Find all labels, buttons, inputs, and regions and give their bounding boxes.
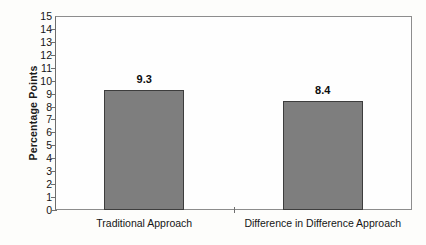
bar	[104, 90, 184, 210]
y-axis-tick-label: 2	[6, 178, 52, 190]
y-axis-tick-label: 15	[6, 10, 52, 22]
y-axis-tick-label: 0	[6, 204, 52, 216]
x-axis-tick-mark	[234, 207, 235, 213]
x-axis-tick-label: Traditional Approach	[96, 217, 192, 229]
y-axis-tick-label: 3	[6, 165, 52, 177]
y-axis-tick-mark	[51, 210, 57, 211]
y-axis-tick-label: 4	[6, 152, 52, 164]
y-axis-tick-label: 13	[6, 36, 52, 48]
y-axis-tick-label: 1	[6, 191, 52, 203]
bar-value-label: 8.4	[315, 84, 330, 96]
y-axis-tick-label: 6	[6, 126, 52, 138]
bar-chart: Percentage Points 1514131211109876543210…	[0, 0, 426, 245]
y-axis-tick-label: 9	[6, 88, 52, 100]
y-axis-tick-label: 11	[6, 62, 52, 74]
y-axis-tick-label: 12	[6, 49, 52, 61]
y-axis-tick-label: 10	[6, 75, 52, 87]
y-axis-tick-label: 8	[6, 101, 52, 113]
y-axis-tick-label: 7	[6, 113, 52, 125]
y-axis-tick-label: 5	[6, 139, 52, 151]
bar-value-label: 9.3	[137, 73, 152, 85]
bar	[283, 101, 363, 210]
x-axis-tick-label: Difference in Difference Approach	[244, 217, 401, 229]
y-axis-tick-label: 14	[6, 23, 52, 35]
